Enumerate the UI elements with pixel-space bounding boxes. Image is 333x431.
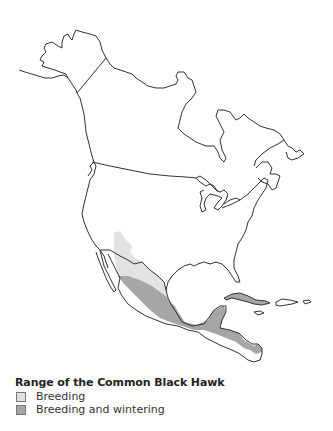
alaska-coast	[19, 30, 170, 88]
map-legend: Range of the Common Black Hawk Breeding …	[15, 376, 225, 416]
cuba	[224, 293, 270, 305]
labrador-coast	[284, 140, 304, 160]
legend-title: Range of the Common Black Hawk	[15, 376, 225, 389]
legend-item-label: Breeding and wintering	[36, 403, 165, 416]
lake-ontario-erie	[222, 198, 240, 208]
gulf-st-lawrence	[256, 162, 280, 190]
legend-item-label: Breeding	[36, 390, 85, 403]
legend-item-breeding: Breeding	[15, 390, 225, 403]
great-lakes	[196, 176, 228, 212]
breeding-and-wintering-range	[118, 276, 262, 354]
atlantic-coast	[166, 178, 268, 312]
legend-item-breeding-and-wintering: Breeding and wintering	[15, 403, 225, 416]
breeding-swatch	[16, 392, 26, 402]
pacific-coast-us	[82, 162, 108, 268]
breeding-and-wintering-swatch	[16, 405, 26, 415]
hispaniola	[276, 299, 298, 306]
baja-california	[96, 250, 116, 292]
range-map	[0, 0, 333, 370]
puerto-rico	[303, 300, 311, 304]
pacific-coast-north	[68, 78, 94, 176]
hudson-bay	[170, 72, 284, 166]
jamaica	[254, 311, 264, 315]
alaska-canada-border	[77, 58, 106, 93]
